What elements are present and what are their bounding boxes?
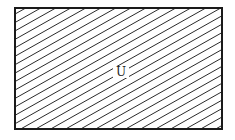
universal-set-label: U xyxy=(113,66,129,78)
